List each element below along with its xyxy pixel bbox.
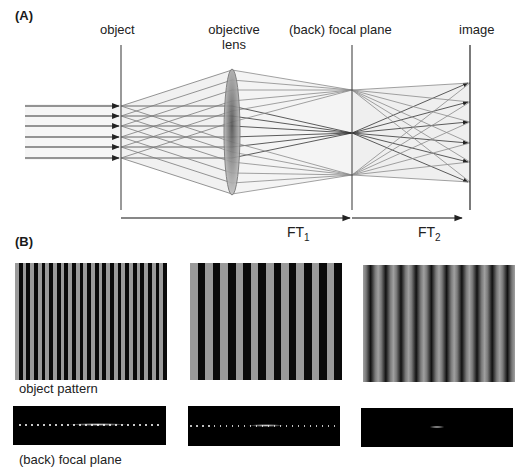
central-bright-spots — [68, 423, 128, 426]
coarse-grating-pattern — [190, 263, 342, 380]
objective-lens-shape — [224, 69, 240, 195]
coarse-grating-spectrum — [188, 406, 340, 446]
ft2-sub: 2 — [435, 232, 441, 243]
ft2-label: FT2 — [418, 224, 441, 243]
panel-b-label: (B) — [15, 234, 33, 249]
focal-plane-row-label: (back) focal plane — [19, 452, 122, 467]
ft1-sub: 1 — [304, 232, 310, 243]
central-bright-spots — [248, 424, 284, 427]
object-pattern-label: object pattern — [19, 381, 98, 396]
sinusoidal-grating-spectrum — [361, 408, 513, 447]
light-cone-fill — [25, 70, 470, 194]
fine-grating-pattern — [15, 263, 167, 380]
sinusoidal-grating-pattern — [363, 265, 515, 382]
ray-diagram — [0, 0, 531, 250]
fine-grating-spectrum — [13, 406, 166, 445]
ft2-main: FT — [418, 224, 435, 240]
ft1-main: FT — [287, 224, 304, 240]
central-spot — [430, 426, 444, 428]
ft1-label: FT1 — [287, 224, 310, 243]
